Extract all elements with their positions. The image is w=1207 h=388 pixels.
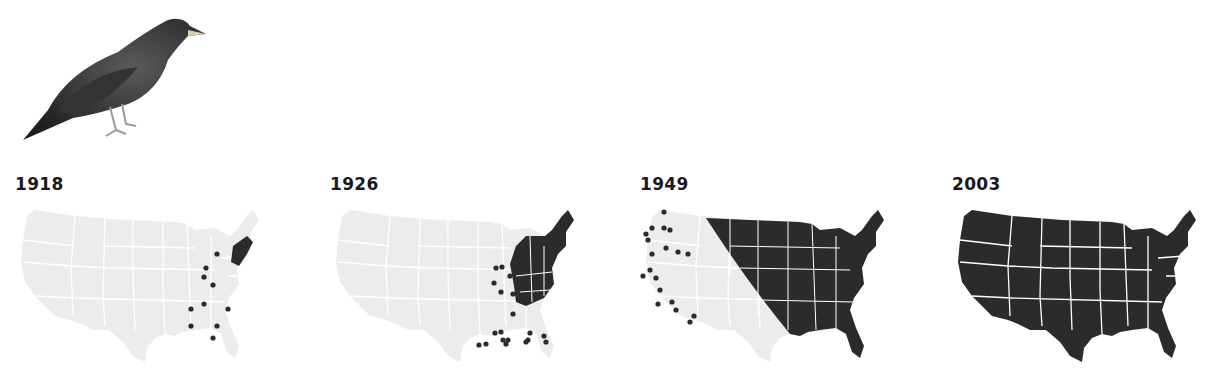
us-map-1926 <box>330 206 580 366</box>
us-map-1918 <box>15 206 265 366</box>
year-label: 1918 <box>15 174 64 194</box>
us-map-1949 <box>640 206 890 366</box>
map-panel-1918: 1918 <box>15 170 275 380</box>
map-panel-1949: 1949 <box>640 170 900 380</box>
year-label: 1926 <box>330 174 379 194</box>
year-label: 2003 <box>952 174 1001 194</box>
map-panel-2003: 2003 <box>952 170 1207 380</box>
occupied-region <box>958 210 1196 362</box>
us-map-2003 <box>952 206 1202 366</box>
year-label: 1949 <box>640 174 689 194</box>
map-panel-1926: 1926 <box>330 170 590 380</box>
starling-bird-illustration <box>18 12 208 144</box>
occupied-region <box>510 210 574 306</box>
